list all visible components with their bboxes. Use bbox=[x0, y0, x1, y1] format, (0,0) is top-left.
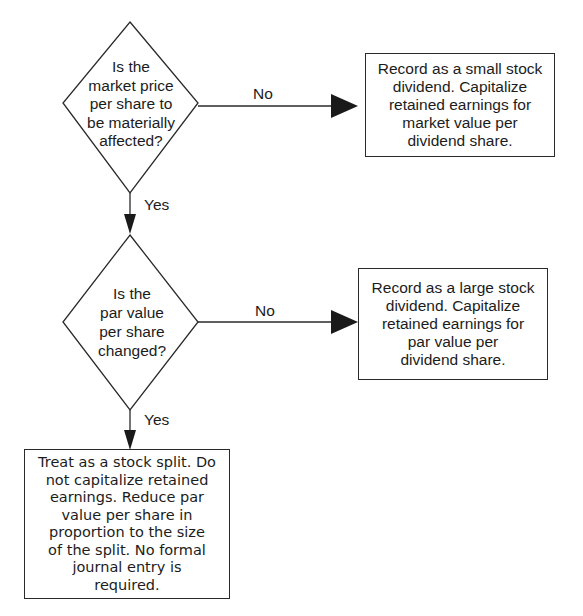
outcome-line: Record as a small stock bbox=[378, 60, 543, 78]
decision-line: Is the bbox=[78, 58, 184, 77]
outcome-small-stock-dividend: Record as a small stock dividend. Capita… bbox=[365, 53, 555, 157]
decision-text-par-value: Is the par value per share changed? bbox=[80, 284, 184, 360]
outcome-line: value per share in bbox=[38, 507, 216, 525]
decision-line: per share bbox=[80, 322, 184, 341]
edge-label-yes: Yes bbox=[144, 411, 169, 429]
outcome-line: earnings. Reduce par bbox=[38, 489, 216, 507]
outcome-large-stock-dividend: Record as a large stock dividend. Capita… bbox=[358, 268, 548, 380]
outcome-line: dividend. Capitalize bbox=[378, 78, 543, 96]
outcome-line: dividend share. bbox=[372, 351, 535, 369]
outcome-line: Treat as a stock split. Do bbox=[38, 454, 216, 472]
outcome-stock-split: Treat as a stock split. Do not capitaliz… bbox=[24, 449, 230, 599]
decision-line: par value bbox=[80, 303, 184, 322]
decision-line: be materially bbox=[78, 114, 184, 133]
outcome-line: par value per bbox=[372, 333, 535, 351]
decision-text-market-price: Is the market price per share to be mate… bbox=[78, 58, 184, 151]
outcome-line: required. bbox=[38, 577, 216, 595]
outcome-line: dividend. Capitalize bbox=[372, 297, 535, 315]
outcome-line: retained earnings for bbox=[378, 96, 543, 114]
outcome-line: dividend share. bbox=[378, 132, 543, 150]
outcome-line: of the split. No formal bbox=[38, 542, 216, 560]
outcome-line: Record as a large stock bbox=[372, 279, 535, 297]
decision-line: changed? bbox=[80, 341, 184, 360]
decision-line: affected? bbox=[78, 132, 184, 151]
edge-label-no: No bbox=[253, 85, 273, 103]
outcome-line: retained earnings for bbox=[372, 315, 535, 333]
edge-label-yes: Yes bbox=[144, 196, 169, 214]
outcome-line: market value per bbox=[378, 114, 543, 132]
arrowhead-down-icon bbox=[124, 430, 136, 450]
edge-label-no: No bbox=[255, 302, 275, 320]
outcome-line: proportion to the size bbox=[38, 524, 216, 542]
outcome-line: not capitalize retained bbox=[38, 472, 216, 490]
arrowhead-right-icon bbox=[331, 310, 358, 334]
arrowhead-right-icon bbox=[331, 94, 358, 118]
decision-line: per share to bbox=[78, 95, 184, 114]
decision-line: market price bbox=[78, 77, 184, 96]
decision-line: Is the bbox=[80, 284, 184, 303]
arrowhead-down-icon bbox=[124, 214, 136, 234]
outcome-line: journal entry is bbox=[38, 559, 216, 577]
